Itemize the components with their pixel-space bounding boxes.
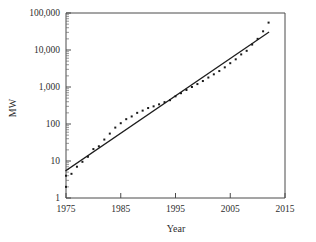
data-point xyxy=(125,118,127,120)
data-point xyxy=(196,83,198,85)
data-point xyxy=(240,53,242,55)
data-point xyxy=(262,30,264,32)
y-axis-title: MW xyxy=(7,98,18,117)
data-point xyxy=(87,156,89,158)
data-point xyxy=(175,95,177,97)
data-point xyxy=(213,73,215,75)
data-point xyxy=(235,58,237,60)
data-point xyxy=(103,139,105,141)
data-point xyxy=(169,99,171,101)
y-tick-label: 100 xyxy=(46,119,61,129)
data-point xyxy=(207,77,209,79)
data-point xyxy=(180,92,182,94)
data-point xyxy=(120,122,122,124)
data-point xyxy=(218,70,220,72)
y-tick-label: 100,000 xyxy=(29,8,60,18)
x-tick-label: 1975 xyxy=(57,204,76,214)
x-axis-title: Year xyxy=(167,223,186,234)
data-point xyxy=(142,110,144,112)
data-point xyxy=(131,115,133,117)
data-point xyxy=(98,145,100,147)
data-point xyxy=(202,80,204,82)
data-point xyxy=(92,148,94,150)
data-point xyxy=(109,133,111,135)
data-point xyxy=(65,175,67,177)
data-point xyxy=(153,105,155,107)
data-point xyxy=(114,127,116,129)
data-point xyxy=(268,22,270,24)
y-tick-label: 1,000 xyxy=(39,82,61,92)
data-point xyxy=(164,101,166,103)
data-point xyxy=(251,44,253,46)
data-point xyxy=(191,86,193,88)
chart-plot-area: 1101001,00010,000100,000 197519851995200… xyxy=(0,0,316,242)
data-point xyxy=(136,112,138,114)
data-point xyxy=(185,89,187,91)
chart-figure: 1101001,00010,000100,000 197519851995200… xyxy=(0,0,316,242)
data-point xyxy=(76,166,78,168)
data-point xyxy=(147,107,149,109)
data-point xyxy=(70,173,72,175)
data-point xyxy=(229,62,231,64)
data-point xyxy=(81,161,83,163)
x-tick-label: 2015 xyxy=(276,204,295,214)
data-point xyxy=(246,50,248,52)
x-tick-label: 2005 xyxy=(221,204,240,214)
x-tick-label: 1985 xyxy=(111,204,130,214)
x-tick-label: 1995 xyxy=(166,204,185,214)
data-point xyxy=(158,103,160,105)
y-tick-label: 10 xyxy=(51,156,61,166)
data-point xyxy=(65,186,67,188)
y-tick-label: 10,000 xyxy=(34,45,60,55)
data-point xyxy=(257,38,259,40)
y-tick-label: 1 xyxy=(55,193,60,203)
data-point xyxy=(224,66,226,68)
